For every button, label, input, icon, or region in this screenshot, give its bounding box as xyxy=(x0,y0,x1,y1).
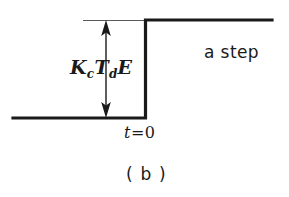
derivative-time-subscript: d xyxy=(109,67,118,81)
gain-symbol: K xyxy=(70,56,87,78)
figure-caption: ( b ) xyxy=(126,166,167,183)
time-origin-label: t=0 xyxy=(124,125,156,141)
equals-sign: = xyxy=(131,123,145,142)
error-symbol: E xyxy=(118,56,133,78)
step-response-figure: KcTdE t=0 a step ( b ) xyxy=(0,0,289,197)
step-trace xyxy=(13,20,272,118)
time-value: 0 xyxy=(145,123,156,142)
derivative-time-symbol: T xyxy=(94,56,108,78)
dimension-magnitude-label: KcTdE xyxy=(70,58,132,80)
step-note-label: a step xyxy=(204,44,259,61)
time-variable: t xyxy=(124,123,131,142)
